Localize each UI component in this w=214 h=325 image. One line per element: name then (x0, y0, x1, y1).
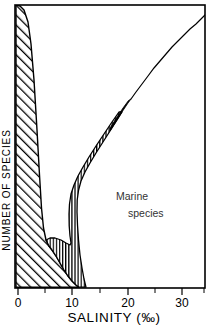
salinity-species-chart: 0 10 20 30 SALINITY (‰) NUMBER OF SPECIE… (0, 0, 214, 325)
x-tick-label-0: 0 (15, 296, 22, 310)
x-tick-label-10: 10 (65, 296, 79, 310)
remane-diagram-figure: 0 10 20 30 SALINITY (‰) NUMBER OF SPECIE… (0, 0, 214, 325)
marine-species-label-line1: Marine (116, 190, 148, 202)
x-tick-label-20: 20 (121, 296, 135, 310)
x-axis-title: SALINITY (‰) (67, 310, 160, 325)
y-axis-title: NUMBER OF SPECIES (1, 129, 12, 250)
marine-species-label-line2: species (128, 207, 164, 219)
x-tick-label-30: 30 (175, 296, 189, 310)
